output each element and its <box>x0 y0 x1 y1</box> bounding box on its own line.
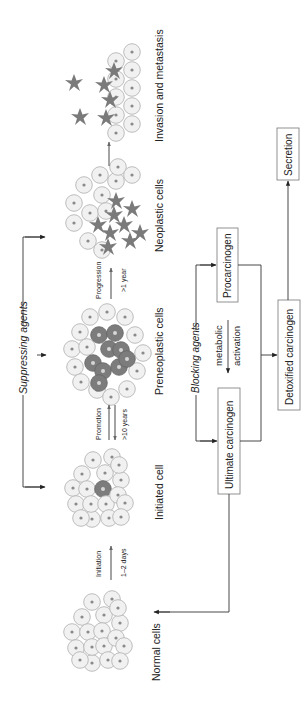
invasion-metastasis-cluster <box>65 44 140 142</box>
metabolism-flowchart: Procarcinogen Ultimate carcinogen Detoxi… <box>154 128 300 612</box>
carcinogen-to-normal-cells-line <box>156 494 229 612</box>
scan-bleed-through <box>0 0 308 1</box>
normal-cells-label: Normal cells <box>150 623 162 681</box>
progression-transition: Progression >1 year <box>95 262 128 299</box>
activation-label: activation <box>231 326 242 366</box>
secretion-label: Secretion <box>283 134 294 176</box>
detoxified-carcinogen-label: Detoxified carcinogen <box>284 309 295 405</box>
promotion-label: Promotion <box>95 408 102 440</box>
initiation-label: Initiation <box>95 551 102 577</box>
suppressing-agents-bracket: Suppressing agents <box>17 237 46 487</box>
normal-cells-cluster <box>64 591 133 672</box>
initiation-transition: Initiation 1–2 days <box>95 546 128 580</box>
progression-label: Progression <box>95 262 103 299</box>
initiated-cell-label: Initiated cell <box>153 465 165 520</box>
suppressing-agents-label: Suppressing agents <box>17 300 29 394</box>
neoplastic-cells-label: Neoplastic cells <box>153 179 165 252</box>
initiated-cell-cluster <box>65 449 134 528</box>
preneoplastic-cells-cluster <box>64 304 152 406</box>
invasion-metastasis-label: Invasion and metastasis <box>153 29 165 142</box>
promotion-transition: Promotion >10 years <box>95 405 129 440</box>
ultimate-carcinogen-label: Ultimate carcinogen <box>224 401 235 489</box>
blocking-agents-label: Blocking agents <box>190 322 201 393</box>
procarcinogen-label: Procarcinogen <box>222 234 233 298</box>
promotion-duration: >10 years <box>121 409 129 440</box>
preneoplastic-cells-label: Preneoplastic cells <box>153 307 165 395</box>
neoplastic-cells-cluster <box>66 159 149 259</box>
metabolic-label: metabolic <box>213 325 224 366</box>
initiation-duration: 1–2 days <box>120 548 128 577</box>
progression-duration: >1 year <box>120 268 128 292</box>
carcinogenesis-diagram: Normal cells Initiated cell Preneoplasti… <box>0 0 308 714</box>
